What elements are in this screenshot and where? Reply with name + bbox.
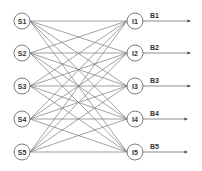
node-s4: S4 bbox=[14, 111, 30, 127]
node-i2: I2 bbox=[127, 45, 143, 61]
node-label: I5 bbox=[132, 149, 138, 156]
output-label-b4: B4 bbox=[150, 110, 159, 117]
node-s1: S1 bbox=[14, 13, 30, 29]
node-i1: I1 bbox=[127, 13, 143, 29]
output-label-b5: B5 bbox=[150, 143, 159, 150]
arrow-head-icon bbox=[188, 51, 192, 54]
intermediate-nodes-group: I1I2I3I4I5 bbox=[127, 13, 143, 160]
output-label-b1: B1 bbox=[150, 12, 159, 19]
node-i4: I4 bbox=[127, 111, 143, 127]
arrow-head-icon bbox=[188, 19, 192, 22]
arrow-head-icon bbox=[185, 150, 189, 153]
output-label-b2: B2 bbox=[150, 44, 159, 51]
edges-group bbox=[30, 21, 127, 152]
node-s3: S3 bbox=[14, 78, 30, 94]
output-label-b3: B3 bbox=[150, 77, 159, 84]
arrow-head-icon bbox=[188, 84, 192, 87]
node-label: S1 bbox=[18, 18, 27, 25]
node-label: I4 bbox=[132, 116, 138, 123]
network-diagram: B1B2B3B4B5 S1S2S3S4S5 I1I2I3I4I5 bbox=[0, 0, 202, 171]
node-s5: S5 bbox=[14, 144, 30, 160]
source-nodes-group: S1S2S3S4S5 bbox=[14, 13, 30, 160]
node-i3: I3 bbox=[127, 78, 143, 94]
node-label: S5 bbox=[18, 149, 27, 156]
arrow-head-icon bbox=[185, 117, 189, 120]
node-label: I3 bbox=[132, 83, 138, 90]
node-i5: I5 bbox=[127, 144, 143, 160]
node-label: S2 bbox=[18, 50, 27, 57]
node-label: S3 bbox=[18, 83, 27, 90]
node-label: I1 bbox=[132, 18, 138, 25]
outputs-group: B1B2B3B4B5 bbox=[143, 12, 191, 154]
node-label: I2 bbox=[132, 50, 138, 57]
node-label: S4 bbox=[18, 116, 27, 123]
node-s2: S2 bbox=[14, 45, 30, 61]
